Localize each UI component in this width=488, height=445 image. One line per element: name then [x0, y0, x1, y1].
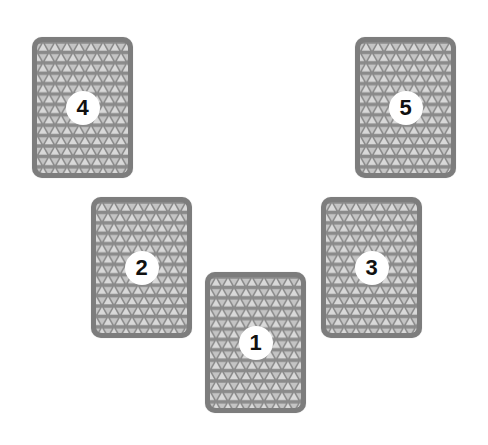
card-position-5[interactable]: 5 [355, 37, 456, 178]
card-position-4[interactable]: 4 [32, 37, 133, 178]
position-number-badge: 4 [66, 91, 100, 125]
card-position-2[interactable]: 2 [91, 197, 192, 338]
card-position-1[interactable]: 1 [205, 272, 306, 413]
card-spread: 4 5 2 3 1 [0, 0, 488, 445]
position-number-badge: 5 [389, 91, 423, 125]
position-number-badge: 3 [355, 251, 389, 285]
position-number-badge: 2 [125, 251, 159, 285]
position-number: 1 [249, 330, 261, 356]
position-number: 2 [135, 255, 147, 281]
position-number: 5 [399, 95, 411, 121]
position-number: 3 [365, 255, 377, 281]
position-number-badge: 1 [239, 326, 273, 360]
card-position-3[interactable]: 3 [321, 197, 422, 338]
position-number: 4 [76, 95, 88, 121]
